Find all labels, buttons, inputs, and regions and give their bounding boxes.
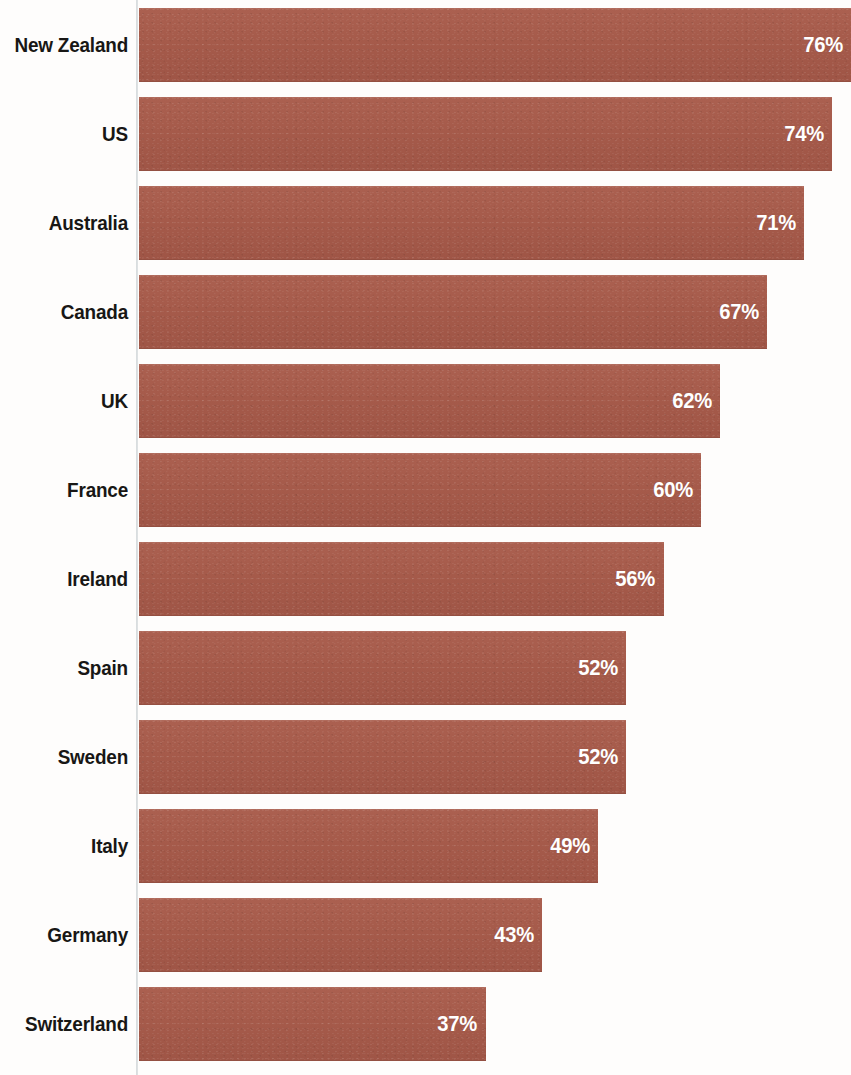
bar: 52% [139,631,626,705]
bar-value-label: 43% [494,922,542,948]
bar: 37% [139,987,486,1061]
bar: 60% [139,453,701,527]
bar: 71% [139,186,804,260]
bar-category-label: Switzerland [13,1012,128,1036]
bar-value-label: 56% [616,566,664,592]
bar-row: Canada67% [0,275,851,349]
bar: 56% [139,542,664,616]
bar-row: Switzerland37% [0,987,851,1061]
bar-category-label: New Zealand [13,33,128,57]
bar-row: UK62% [0,364,851,438]
bar-value-label: 60% [653,477,701,503]
bar-value-label: 74% [784,121,832,147]
bar: 76% [139,8,851,82]
bar-value-label: 37% [438,1011,486,1037]
bar-category-label: Canada [13,300,128,324]
bar-value-label: 62% [672,388,720,414]
bar-category-label: Sweden [13,745,128,769]
bar: 52% [139,720,626,794]
bar: 49% [139,809,598,883]
bar-value-label: 49% [550,833,598,859]
bar: 43% [139,898,542,972]
bar-row: US74% [0,97,851,171]
bar-category-label: Italy [13,834,128,858]
bar-category-label: Spain [13,656,128,680]
bar: 74% [139,97,832,171]
bar-row: France60% [0,453,851,527]
bar-row: Australia71% [0,186,851,260]
bar-category-label: Germany [13,923,128,947]
bar-row: Spain52% [0,631,851,705]
bar-row: Sweden52% [0,720,851,794]
bar-rows-container: New Zealand76%US74%Australia71%Canada67%… [0,0,851,1075]
bar-chart: New Zealand76%US74%Australia71%Canada67%… [0,0,851,1075]
bar: 67% [139,275,767,349]
bar-category-label: US [13,122,128,146]
bar-value-label: 76% [803,32,851,58]
bar-row: Ireland56% [0,542,851,616]
bar-category-label: Australia [13,211,128,235]
bar-category-label: UK [13,389,128,413]
bar-category-label: France [13,478,128,502]
bar-value-label: 67% [719,299,767,325]
bar-row: Italy49% [0,809,851,883]
bar-value-label: 52% [578,655,626,681]
bar-row: Germany43% [0,898,851,972]
bar-row: New Zealand76% [0,8,851,82]
bar-category-label: Ireland [13,567,128,591]
bar-value-label: 71% [756,210,804,236]
bar-value-label: 52% [578,744,626,770]
bar: 62% [139,364,720,438]
